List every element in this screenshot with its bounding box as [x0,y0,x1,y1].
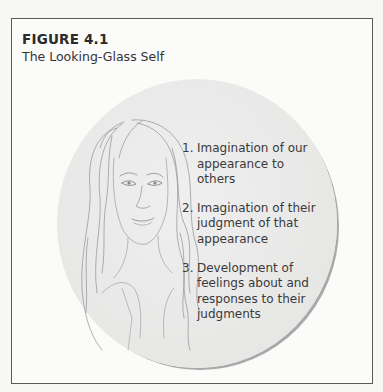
step-text: Imagination of their judgment of that ap… [197,201,316,246]
figure-label: FIGURE 4.1 [22,31,109,47]
woman-portrait-illustration [62,88,202,358]
step-item: 2. Imagination of their judgment of that… [182,201,322,248]
steps-list: 1. Imagination of our appearance to othe… [182,141,322,336]
step-item: 1. Imagination of our appearance to othe… [182,141,322,188]
step-number: 2. [182,201,193,217]
step-number: 1. [182,141,193,157]
figure-title: The Looking-Glass Self [22,49,164,64]
step-number: 3. [182,261,193,277]
step-item: 3. Development of feelings about and res… [182,261,322,323]
step-text: Imagination of our appearance to others [197,141,308,186]
step-text: Development of feelings about and respon… [197,261,309,322]
